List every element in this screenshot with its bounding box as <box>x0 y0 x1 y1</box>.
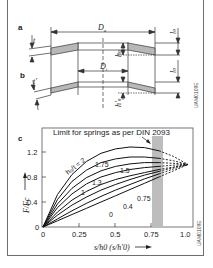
x-tick-0: 0 <box>41 230 45 239</box>
free-height-b-label: l0 <box>169 68 178 73</box>
curve-label-1.5: 1.5 <box>120 167 130 174</box>
plot-area <box>42 128 193 227</box>
curve-label-0.4: 0.4 <box>123 203 133 210</box>
cone-height-label: h0 <box>114 50 123 57</box>
y-tick-0: 0 <box>35 223 39 232</box>
x-axis <box>79 223 151 227</box>
x-tick-1.0: 1.0 <box>180 230 190 239</box>
panel-a-label: a <box>18 23 23 32</box>
outer-diameter-label: Da <box>97 23 107 33</box>
y-axis-label: F/Fc <box>22 197 31 214</box>
x-tick-0.75: 0.75 <box>144 230 159 239</box>
ref-code-bottom: UAM0109E <box>196 220 202 246</box>
thickness-label: t <box>33 36 36 45</box>
x-tick-0.25: 0.25 <box>72 230 87 239</box>
thickness-reduced-label: t′ <box>33 77 37 86</box>
x-tick-0.5: 0.5 <box>110 230 120 239</box>
din-limit-annotation: Limit for springs as per DIN 2093 <box>53 128 170 137</box>
ref-code-top: UAM0109E <box>193 82 199 108</box>
y-tick-0.8: 0.8 <box>27 173 37 182</box>
curve-label-0: 0 <box>109 211 113 218</box>
disc-spring-figure: a b Da Di t t′ l0 l0 h0 h′0 UAM0109E c L… <box>0 0 213 268</box>
free-height-a-label: l0 <box>169 29 178 34</box>
curve-02 <box>43 147 159 227</box>
curve-label-1.75: 1.75 <box>95 161 109 168</box>
y-tick-1.2: 1.2 <box>27 148 37 157</box>
curve-label-0.75: 0.75 <box>137 195 151 202</box>
panel-b-label: b <box>20 71 25 80</box>
curve-label-1.3: 1.3 <box>92 179 102 186</box>
force-deflection-curves <box>43 147 188 227</box>
inner-diameter-label: Di <box>99 62 108 72</box>
y-axis <box>42 152 46 202</box>
panel-c-label: c <box>18 134 23 143</box>
curve-label-1: 1 <box>81 189 85 196</box>
x-axis-label: s/h0 (s/h′0) <box>94 243 130 252</box>
cone-height-reduced-label: h′0 <box>114 98 123 107</box>
